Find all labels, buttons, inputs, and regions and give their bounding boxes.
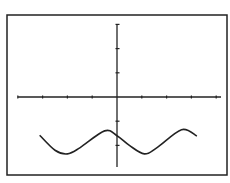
calculator-graph-screen xyxy=(0,0,230,183)
